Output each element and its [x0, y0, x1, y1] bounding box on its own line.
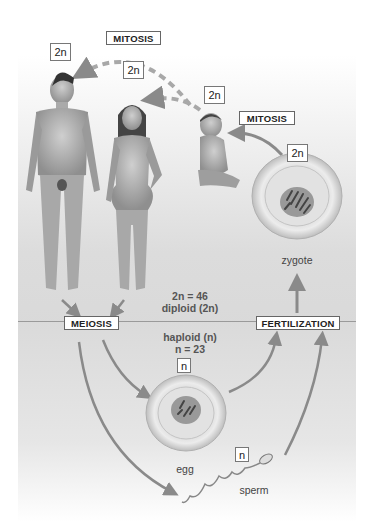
ploidy-box-man: 2n: [50, 43, 71, 61]
mitosis-label-right: MITOSIS: [239, 111, 295, 125]
adult-male-figure: [26, 72, 100, 290]
ploidy-box-sperm: n: [235, 447, 249, 462]
egg-label: egg: [165, 463, 205, 475]
egg-cell: [146, 375, 226, 451]
man-to-meiosis-arrow: [62, 300, 76, 313]
sperm-to-fertilization-arrow: [285, 338, 322, 455]
ploidy-box-egg: n: [177, 358, 191, 373]
meiosis-label: MEIOSIS: [64, 316, 119, 330]
sperm-label: sperm: [232, 484, 276, 496]
zygote-label: zygote: [272, 254, 322, 266]
mitosis-arrow-zygote-to-baby: [236, 133, 282, 155]
egg-to-fertilization-arrow: [229, 338, 276, 392]
mitosis-label-top: MITOSIS: [106, 31, 161, 45]
diploid-label: diploid (2n): [150, 302, 230, 314]
zygote-cell: [252, 153, 342, 239]
haploid-count: n = 23: [150, 343, 230, 355]
fertilization-label: FERTILIZATION: [256, 316, 340, 330]
woman-to-meiosis-arrow: [114, 300, 124, 313]
haploid-label: haploid (n): [150, 331, 230, 343]
mitosis-dashed-arrow-to-woman: [152, 98, 200, 110]
diploid-count: 2n = 46: [150, 290, 230, 302]
ploidy-box-zygote: 2n: [287, 144, 308, 162]
ploidy-box-baby: 2n: [204, 86, 225, 104]
adult-female-figure: [106, 105, 162, 290]
ploidy-box-woman: 2n: [123, 61, 144, 79]
infant-figure: [198, 113, 240, 188]
meiosis-to-egg-arrow: [103, 340, 146, 395]
